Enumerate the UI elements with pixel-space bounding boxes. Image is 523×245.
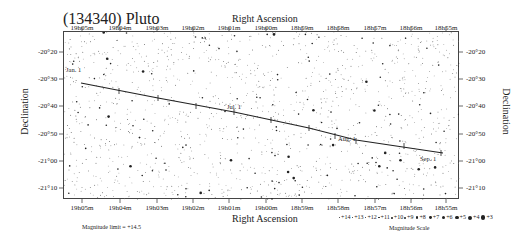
y-tick-label: -21°00 [466, 157, 485, 165]
magnitude-dot-icon [378, 217, 380, 219]
y-tick-label: -20°20 [466, 48, 485, 56]
y-tick-label: -20°40 [38, 102, 57, 110]
x-tick-label: 18h57m [364, 204, 387, 212]
x-tick-label: 18h56m [400, 204, 423, 212]
y-tick-label: -20°30 [466, 75, 485, 83]
scale-entry: +14 [339, 214, 350, 220]
path-label-jan: Jan. 1 [66, 66, 81, 73]
y-tick-label: -20°50 [38, 130, 57, 138]
magnitude-dot-icon [468, 216, 472, 220]
path-label-sep: Sep. 1 [420, 155, 436, 162]
y-tick-label: -21°00 [38, 157, 57, 165]
x-tick-label: 19h03m [146, 204, 169, 212]
path-label-jul: Jul. 1 [227, 103, 241, 110]
scale-entry: +6 [442, 214, 453, 220]
magnitude-dot-icon [365, 217, 366, 218]
magnitude-dot-icon [339, 217, 340, 218]
left-axis-title: Declination [19, 82, 30, 142]
x-tick-label: 19h02m [182, 204, 205, 212]
scale-entry: +13 [352, 214, 364, 220]
scale-entry: +4 [468, 214, 479, 220]
y-tick-label: -20°30 [38, 75, 57, 83]
magnitude-dot-icon [481, 215, 485, 219]
scale-entry: +8 [416, 214, 426, 220]
x-tick-label: 18h59m [291, 204, 314, 212]
scale-entry: +10 [391, 214, 403, 220]
top-axis-title: Right Ascension [232, 13, 298, 24]
scale-entry: +5 [455, 214, 466, 220]
y-tick-label: -20°50 [466, 130, 485, 138]
y-tick-label: -20°40 [466, 102, 485, 110]
magnitude-dot-icon [429, 216, 432, 219]
x-tick-label: 18h58m [327, 204, 350, 212]
magnitude-dot-icon [352, 217, 353, 218]
magnitude-scale-title: Magnitude Scale [389, 225, 430, 231]
scale-entry: +3 [481, 214, 493, 220]
magnitude-dot-icon [404, 217, 406, 219]
magnitude-limit: Magnitude limit = +14.5 [82, 224, 141, 230]
x-tick-label: 19h00m [255, 204, 278, 212]
y-tick-label: -21°10 [38, 184, 57, 192]
magnitude-dot-icon [391, 217, 393, 219]
x-tick-label: 19h04m [109, 204, 132, 212]
right-axis-title: Declination [501, 82, 512, 142]
plot-area: Jan. 1 Jul. 1 Aug. 1 Sep. 1 [63, 31, 459, 199]
scale-entry: +7 [429, 214, 439, 220]
scale-entry: +11 [378, 214, 390, 220]
x-tick-label: 18h55m [435, 204, 458, 212]
scale-entry: +9 [404, 214, 413, 220]
y-tick-label: -21°10 [466, 184, 485, 192]
x-tick-label: 19h01m [218, 204, 241, 212]
magnitude-dot-icon [455, 216, 459, 220]
magnitude-dot-icon [442, 216, 445, 219]
magnitude-dot-icon [416, 216, 418, 218]
y-tick-label: -20°20 [38, 48, 57, 56]
path-label-aug: Aug. 1 [338, 135, 356, 142]
pluto-path [64, 32, 460, 200]
bottom-axis-title: Right Ascension [232, 213, 298, 224]
scale-entry: +12 [365, 214, 377, 220]
magnitude-scale: +14 +13 +12 +11 +10 +9 +8 +7 +6 +5 +4 +3 [339, 214, 499, 224]
x-tick-label: 19h05m [71, 204, 94, 212]
